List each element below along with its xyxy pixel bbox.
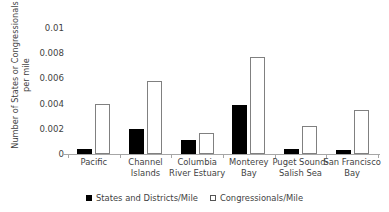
legend-item[interactable]: States and Districts/Mile: [86, 193, 198, 203]
x-axis-tick: [223, 154, 224, 158]
y-axis-tick-label: 0.004: [26, 99, 64, 109]
bar-chart: Number of States or Congressionals per m…: [0, 0, 389, 212]
bar-states-districts: [77, 149, 92, 154]
bar-congressionals: [199, 133, 214, 154]
y-axis-tick-label: 0: [26, 149, 64, 159]
category-label-line: San Francisco: [320, 157, 384, 168]
bar-group: [120, 28, 172, 154]
bar-states-districts: [129, 129, 144, 154]
legend-item[interactable]: Congressionals/Mile: [210, 193, 303, 203]
bar-states-districts: [284, 149, 299, 154]
bar-group: [68, 28, 120, 154]
bar-congressionals: [147, 81, 162, 154]
legend-label: States and Districts/Mile: [96, 193, 198, 203]
x-axis-tick: [120, 154, 121, 158]
x-axis-tick: [68, 154, 69, 158]
bar-congressionals: [354, 110, 369, 154]
x-axis-category-labels: PacificChannelIslandsColumbiaRiver Estua…: [68, 157, 380, 185]
legend-swatch-icon: [210, 195, 216, 201]
x-axis-tick: [171, 154, 172, 158]
bar-states-districts: [232, 105, 247, 154]
bar-group: [326, 28, 378, 154]
x-axis-line: [68, 154, 380, 155]
bar-group: [275, 28, 327, 154]
bar-congressionals: [250, 57, 265, 154]
chart-legend: States and Districts/MileCongressionals/…: [0, 193, 389, 203]
y-axis-tick-label: 0.01: [26, 23, 64, 33]
bar-group: [171, 28, 223, 154]
bar-congressionals: [302, 126, 317, 154]
legend-label: Congressionals/Mile: [220, 193, 303, 203]
plot-area: [68, 28, 378, 154]
y-axis-tick-label: 0.008: [26, 48, 64, 58]
category-label-line: Bay: [320, 168, 384, 179]
x-axis-tick: [378, 154, 379, 158]
x-axis-tick: [275, 154, 276, 158]
legend-swatch-icon: [86, 195, 92, 201]
y-axis-tick-label: 0.006: [26, 73, 64, 83]
y-axis-title-line1: Number of States or Congressionals: [10, 0, 21, 160]
bar-congressionals: [95, 104, 110, 154]
bar-states-districts: [181, 140, 196, 154]
y-axis-tick-labels: 0.010.0080.0060.0040.0020: [26, 24, 64, 158]
bar-states-districts: [336, 150, 351, 154]
bar-group: [223, 28, 275, 154]
x-axis-category-label: San FranciscoBay: [320, 157, 384, 179]
y-axis-tick-label: 0.002: [26, 124, 64, 134]
x-axis-tick: [326, 154, 327, 158]
